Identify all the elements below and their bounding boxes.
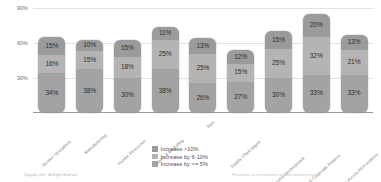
bar-segment[interactable]: 15% — [114, 40, 141, 58]
bar-column[interactable]: 15%25%30% — [263, 8, 293, 113]
bar-segment[interactable]: 21% — [341, 50, 368, 75]
bar-segment[interactable]: 38% — [76, 69, 103, 113]
footer-note: Percentages are of respondents reporting… — [232, 173, 317, 177]
bar-segment-label: 26% — [196, 95, 209, 102]
bar-group: 15%16%34%10%15%38%15%18%30%11%25%38%13%2… — [33, 8, 373, 113]
x-axis-label-text: Risk — [206, 120, 216, 129]
bar-segment-label: 15% — [272, 37, 285, 44]
bar-segment[interactable]: 33% — [303, 75, 330, 114]
bar-stack[interactable]: 10%15%38% — [76, 40, 103, 113]
stacked-bar-chart: 30%60%90% 15%16%34%10%15%38%15%18%30%11%… — [0, 0, 381, 182]
bar-segment[interactable]: 15% — [38, 37, 65, 55]
bar-segment-label: 11% — [159, 30, 171, 37]
bar-segment[interactable]: 33% — [341, 75, 368, 114]
x-axis-label: Service Operations — [68, 114, 99, 143]
x-axis-label: Sales & Marketing — [181, 114, 211, 142]
bar-column[interactable]: 13%21%33% — [339, 8, 369, 113]
bar-segment-label: 33% — [310, 90, 323, 97]
bar-stack[interactable]: 13%21%33% — [341, 35, 368, 113]
bar-column[interactable]: 13%25%26% — [188, 8, 218, 113]
bar-segment[interactable]: 30% — [265, 78, 292, 113]
x-axis-label-text: Product & Service Development — [255, 156, 305, 182]
bar-segment[interactable]: 38% — [152, 69, 179, 113]
bar-stack[interactable]: 12%15%27% — [227, 50, 254, 113]
bar-segment[interactable]: 32% — [303, 37, 330, 74]
bar-segment[interactable]: 10% — [76, 40, 103, 52]
bar-segment-label: 30% — [121, 92, 134, 99]
legend-item[interactable]: Increase >10% — [152, 146, 208, 152]
bar-segment-label: 38% — [159, 88, 172, 95]
bar-segment-label: 20% — [310, 22, 323, 29]
y-axis: 30%60%90% — [0, 8, 31, 113]
bar-segment-label: 38% — [83, 88, 96, 95]
bar-segment-label: 18% — [121, 64, 134, 71]
bar-segment[interactable]: 13% — [341, 35, 368, 50]
x-axis-label-text: Supply Chain Mgmt — [229, 140, 261, 169]
bar-segment[interactable]: 25% — [265, 49, 292, 78]
bar-segment[interactable]: 15% — [76, 51, 103, 69]
bar-segment[interactable]: 30% — [114, 78, 141, 113]
legend-swatch — [152, 154, 158, 160]
bar-column[interactable]: 15%16%34% — [37, 8, 67, 113]
bar-segment-label: 25% — [196, 65, 209, 72]
bar-segment[interactable]: 13% — [189, 38, 216, 53]
bar-segment[interactable]: 16% — [38, 55, 65, 74]
bar-segment-label: 21% — [348, 59, 361, 66]
x-axis-label: Manufacturing — [104, 114, 128, 136]
x-axis-label: Risk — [212, 114, 222, 123]
bar-segment[interactable]: 25% — [189, 54, 216, 83]
bar-segment[interactable]: 15% — [265, 31, 292, 49]
legend-item[interactable]: Increase by 6-10% — [152, 154, 208, 160]
bar-segment[interactable]: 25% — [152, 40, 179, 69]
bar-segment-label: 15% — [234, 69, 247, 76]
legend-item[interactable]: Increase by <= 5% — [152, 161, 208, 167]
x-axis-label-text: Human Resources — [117, 138, 147, 166]
y-axis-tick: 60% — [17, 40, 28, 46]
x-axis-label: Supply Chain Mgmt — [258, 114, 290, 143]
bar-segment-label: 13% — [196, 43, 209, 50]
x-axis-line — [33, 112, 373, 113]
legend-swatch — [152, 161, 158, 167]
legend-swatch — [152, 146, 158, 152]
bar-segment[interactable]: 34% — [38, 73, 65, 113]
x-axis-label-text: Manufacturing — [83, 133, 107, 155]
bar-segment-label: 33% — [348, 90, 361, 97]
bar-column[interactable]: 11%25%38% — [150, 8, 180, 113]
bar-column[interactable]: 12%15%27% — [226, 8, 256, 113]
footer-copyright: Copyright 2021 · All Rights Reserved — [24, 173, 77, 177]
bar-segment-label: 32% — [310, 53, 323, 60]
legend-label: Increase by 6-10% — [161, 154, 209, 160]
bar-segment-label: 25% — [159, 51, 172, 58]
x-axis-label-text: Service Operations — [41, 139, 72, 168]
bar-segment[interactable]: 20% — [303, 14, 330, 37]
bar-segment[interactable]: 18% — [114, 57, 141, 78]
bar-segment[interactable]: 27% — [227, 82, 254, 114]
bar-segment[interactable]: 15% — [227, 64, 254, 82]
bar-segment-label: 15% — [121, 45, 134, 52]
bar-segment-label: 30% — [272, 92, 285, 99]
plot-area: 15%16%34%10%15%38%15%18%30%11%25%38%13%2… — [33, 8, 373, 113]
bar-segment[interactable]: 26% — [189, 83, 216, 113]
bar-segment-label: 15% — [45, 43, 58, 50]
bar-column[interactable]: 10%15%38% — [75, 8, 105, 113]
bar-stack[interactable]: 15%16%34% — [38, 37, 65, 113]
bar-column[interactable]: 15%18%30% — [112, 8, 142, 113]
y-axis-tick: 30% — [17, 75, 28, 81]
bar-segment-label: 27% — [234, 94, 247, 101]
bar-segment[interactable]: 12% — [227, 50, 254, 64]
bar-stack[interactable]: 11%25%38% — [152, 27, 179, 113]
bar-segment-label: 12% — [234, 54, 247, 61]
legend-label: Increase >10% — [161, 146, 199, 152]
bar-stack[interactable]: 15%25%30% — [265, 31, 292, 113]
bar-segment-label: 34% — [45, 90, 58, 97]
bar-segment-label: 15% — [83, 57, 96, 64]
legend-label: Increase by <= 5% — [161, 161, 209, 167]
bar-column[interactable]: 20%32%33% — [301, 8, 331, 113]
bar-stack[interactable]: 13%25%26% — [189, 38, 216, 113]
bar-stack[interactable]: 20%32%33% — [303, 14, 330, 113]
bar-segment-label: 25% — [272, 60, 285, 67]
bar-segment-label: 16% — [45, 61, 58, 68]
bar-stack[interactable]: 15%18%30% — [114, 40, 141, 114]
chart-legend: Increase >10%Increase by 6-10%Increase b… — [152, 146, 208, 167]
bar-segment[interactable]: 11% — [152, 27, 179, 40]
